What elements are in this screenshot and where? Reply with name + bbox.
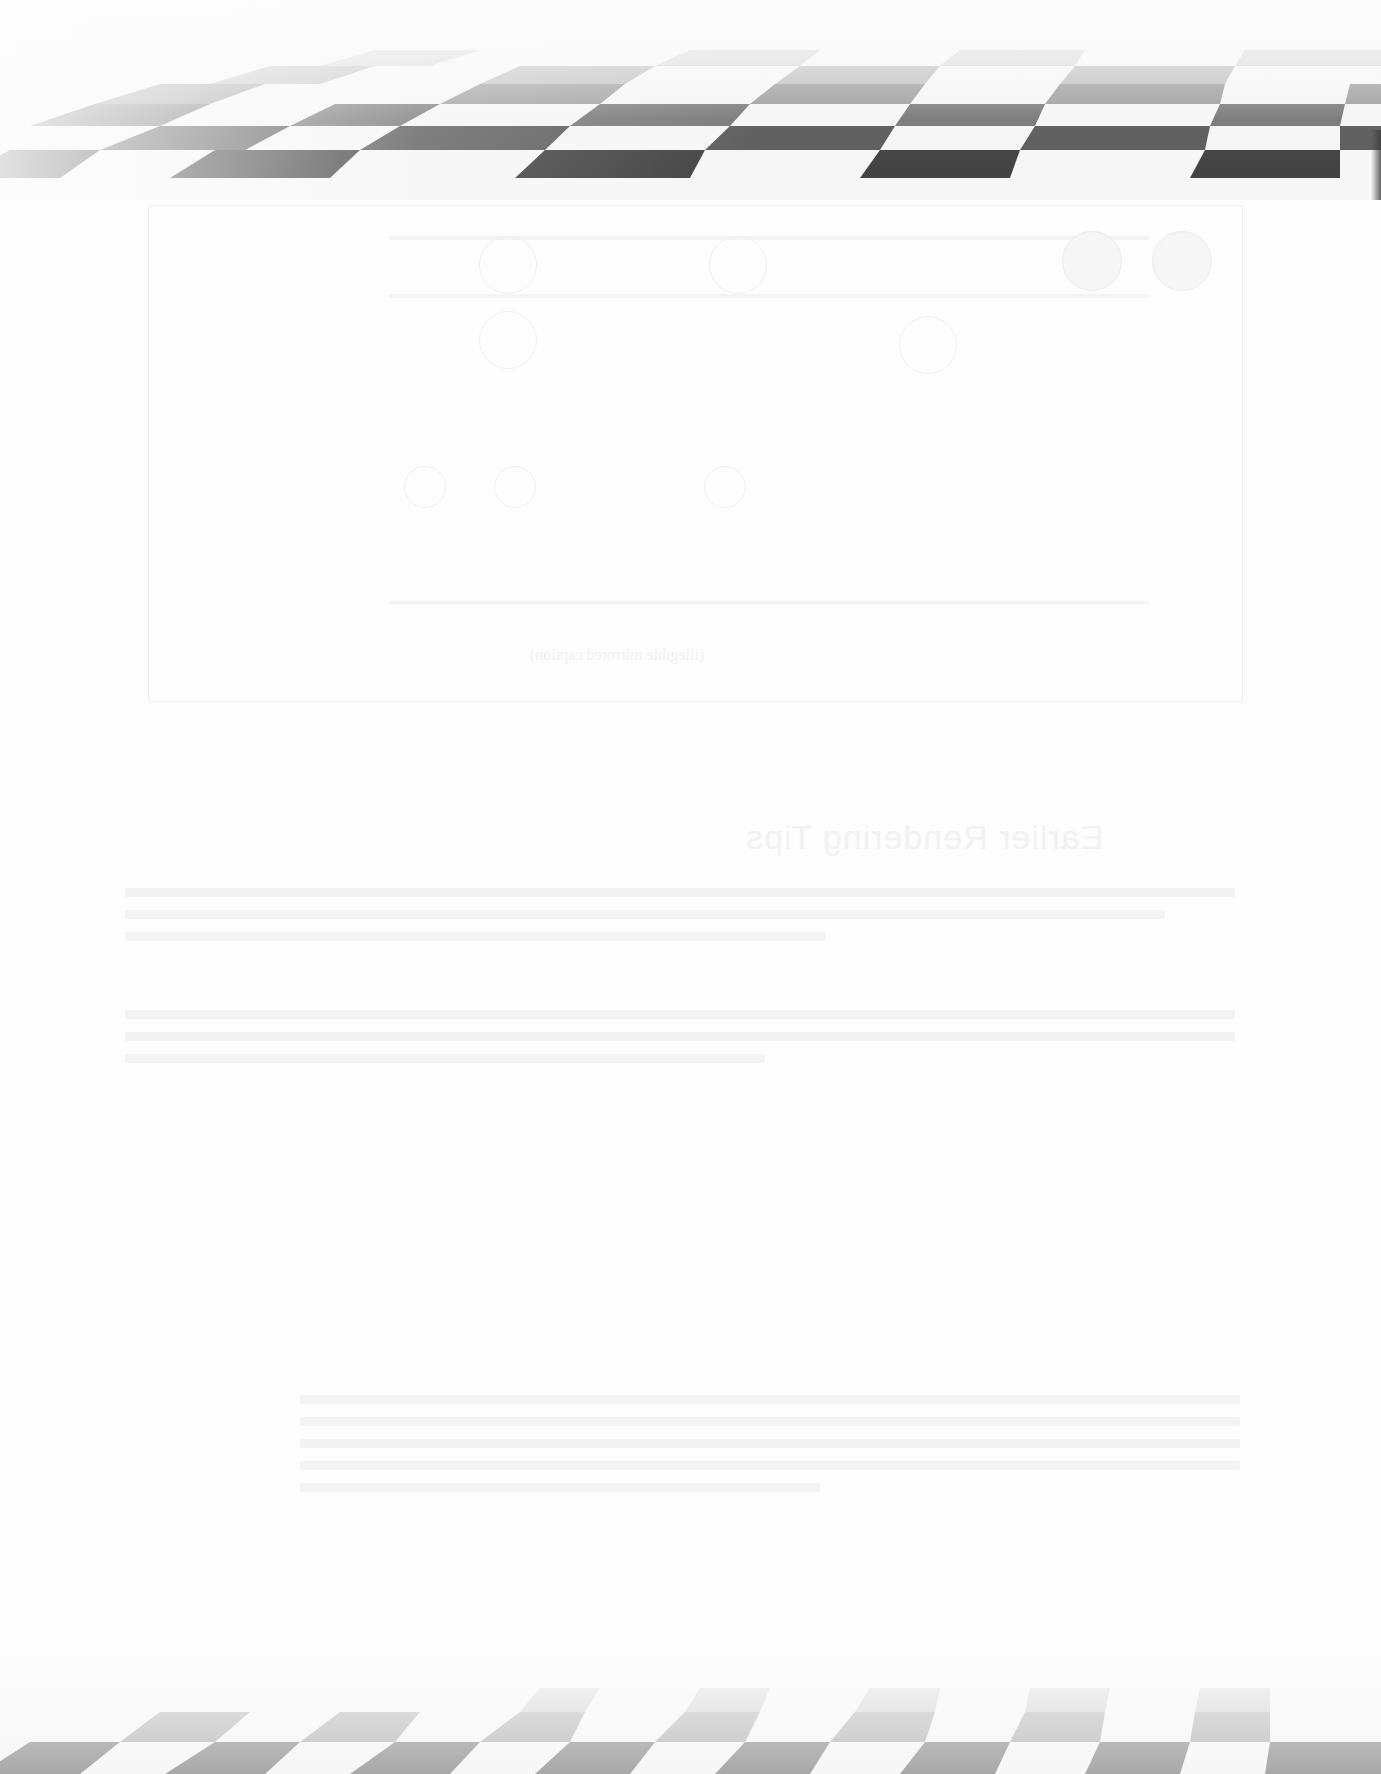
top-band-left-fade: [0, 0, 1381, 200]
ghost-circle: [404, 466, 446, 508]
ghost-figure-rule: [389, 601, 1149, 604]
ghost-circle: [899, 316, 957, 374]
ghost-figure-rule: [389, 294, 1149, 298]
ghost-circle: [479, 311, 537, 369]
ghost-circle: [1062, 231, 1122, 291]
page-edge-shadow: [1371, 130, 1381, 200]
bottom-band-fade: [0, 1650, 1381, 1774]
ghost-circle: [479, 236, 537, 294]
bleed-through-heading: Earlier Rendering Tips: [745, 818, 1103, 857]
ghost-circle: [494, 466, 536, 508]
ghost-circle: [709, 236, 767, 294]
bleed-through-figure-box: [148, 205, 1243, 702]
ghost-circle: [1152, 231, 1212, 291]
ghost-circle: [704, 466, 746, 508]
bleed-through-caption: (illegible mirrored caption): [530, 646, 704, 664]
bottom-checkerboard-band: [0, 1650, 1381, 1774]
top-checkerboard-band: [0, 0, 1381, 200]
